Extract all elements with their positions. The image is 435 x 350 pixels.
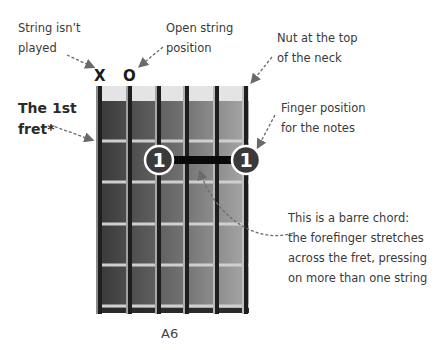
arrow-finger-position xyxy=(258,115,275,147)
barre-bar xyxy=(170,156,236,164)
string-2 xyxy=(215,86,219,314)
string-4 xyxy=(157,86,161,314)
annotation-finger-position: Finger position for the notes xyxy=(281,98,366,138)
annotation-string-not-played: String isn’t played xyxy=(18,18,81,58)
open-string-marker: O xyxy=(123,68,136,84)
string-5 xyxy=(128,86,132,314)
arrow-nut xyxy=(252,57,272,82)
muted-string-marker: X xyxy=(94,68,106,84)
annotation-nut: Nut at the top of the neck xyxy=(277,28,358,68)
svg-text:1: 1 xyxy=(239,149,252,171)
finger-dot-left: 1 xyxy=(145,146,173,174)
string-6 xyxy=(98,86,102,314)
annotation-barre-chord: This is a barre chord: the forefinger st… xyxy=(288,208,427,288)
annotation-first-fret: The 1st fret* xyxy=(18,98,77,140)
nut xyxy=(97,86,249,101)
svg-text:1: 1 xyxy=(152,149,165,171)
fretboard xyxy=(97,101,249,313)
annotation-open-string: Open string position xyxy=(166,18,233,58)
chord-name: A6 xyxy=(161,326,178,341)
arrow-open xyxy=(140,47,163,66)
string-1 xyxy=(244,86,248,314)
finger-dot-right: 1 xyxy=(232,146,260,174)
string-3 xyxy=(185,86,189,314)
